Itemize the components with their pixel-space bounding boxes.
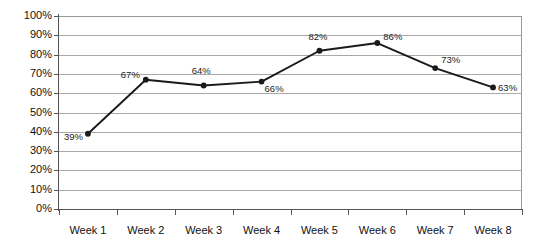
y-axis-tick-label: 10%: [0, 184, 52, 195]
x-axis-tick-mark: [233, 209, 234, 215]
line-chart: 0%10%20%30%40%50%60%70%80%90%100% 39%67%…: [0, 0, 544, 249]
data-point-marker: [201, 83, 207, 89]
data-point-marker: [432, 65, 438, 71]
y-axis-tick-label: 50%: [0, 107, 52, 118]
y-axis-tick-mark: [54, 93, 59, 94]
y-axis-tick-label: 30%: [0, 145, 52, 156]
data-point-marker: [317, 48, 323, 54]
y-axis-tick-mark: [54, 151, 59, 152]
x-axis-tick-mark: [348, 209, 349, 215]
data-point-label: 67%: [121, 70, 140, 80]
data-point-label: 63%: [498, 83, 517, 93]
y-axis-tick-labels: 0%10%20%30%40%50%60%70%80%90%100%: [0, 0, 52, 249]
y-axis-tick-mark: [54, 74, 59, 75]
x-axis-tick-mark: [175, 209, 176, 215]
y-axis-tick-mark: [54, 35, 59, 36]
x-axis-category-label: Week 5: [291, 224, 349, 236]
y-axis-tick-label: 90%: [0, 29, 52, 40]
x-axis-tick-mark: [522, 209, 523, 215]
y-axis-tick-mark: [54, 113, 59, 114]
series-polyline: [88, 43, 493, 134]
y-axis-tick-mark: [54, 190, 59, 191]
data-point-marker: [490, 85, 496, 91]
data-point-marker: [85, 131, 91, 137]
y-axis-tick-mark: [54, 16, 59, 17]
y-axis-tick-label: 70%: [0, 68, 52, 79]
y-axis-tick-mark: [54, 132, 59, 133]
x-axis-category-label: Week 2: [117, 224, 175, 236]
x-axis-category-label: Week 7: [406, 224, 464, 236]
x-axis-tick-mark: [406, 209, 407, 215]
y-axis-tick-label: 100%: [0, 10, 52, 21]
x-axis-category-label: Week 8: [464, 224, 522, 236]
data-point-label: 73%: [441, 55, 460, 65]
data-series-line: [59, 16, 522, 209]
x-axis-tick-mark: [464, 209, 465, 215]
x-axis-category-labels: Week 1Week 2Week 3Week 4Week 5Week 6Week…: [59, 224, 522, 244]
y-axis-tick-label: 0%: [0, 203, 52, 214]
data-point-label: 64%: [192, 66, 211, 76]
x-axis-category-label: Week 1: [59, 224, 117, 236]
x-axis-tick-mark: [117, 209, 118, 215]
x-axis-category-label: Week 6: [348, 224, 406, 236]
data-point-label: 82%: [308, 32, 327, 42]
data-point-marker: [143, 77, 149, 83]
x-axis-category-label: Week 3: [175, 224, 233, 236]
data-point-label: 86%: [383, 32, 402, 42]
y-axis-tick-label: 80%: [0, 49, 52, 60]
y-axis-tick-label: 60%: [0, 87, 52, 98]
y-axis-tick-mark: [54, 170, 59, 171]
data-point-marker: [374, 40, 380, 46]
y-axis-tick-mark: [54, 55, 59, 56]
x-axis-tick-mark: [291, 209, 292, 215]
y-axis-tick-label: 20%: [0, 164, 52, 175]
x-axis-category-label: Week 4: [233, 224, 291, 236]
data-point-label: 39%: [64, 132, 83, 142]
plot-area: 39%67%64%66%82%86%73%63%: [59, 16, 522, 209]
data-point-label: 66%: [265, 84, 284, 94]
x-axis-tick-mark: [59, 209, 60, 215]
y-axis-tick-label: 40%: [0, 126, 52, 137]
